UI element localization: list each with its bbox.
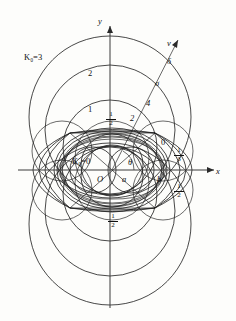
point-b-label: b	[157, 174, 161, 184]
ray-arrowhead	[172, 40, 178, 48]
frac-numerator: 1	[106, 213, 120, 220]
curve-0-label: 0	[161, 137, 165, 147]
k0-equals-0-label: K₀=0	[72, 156, 90, 166]
frac-one-half-right: 1 2	[172, 183, 186, 199]
frac-one-third-right: 1 3	[172, 147, 186, 163]
frac-one-half-lower: 1 2	[106, 213, 120, 229]
ray-4-label: 4	[146, 98, 150, 108]
y-axis-arrowhead	[107, 26, 113, 33]
x-axis-label: x	[216, 166, 220, 176]
y-axis-label: y	[98, 16, 102, 26]
diagram-svg	[0, 0, 236, 321]
point-a-label: a	[122, 174, 126, 184]
figure-canvas: y x K₀=3 2 1 K₀=0 0 4 2 σ δ ν θ O a b 1 …	[0, 0, 236, 321]
origin-label: O	[97, 174, 103, 184]
curve-1-label: 1	[88, 104, 92, 114]
theta-label: θ	[128, 157, 132, 167]
ray-nu-label: ν	[167, 38, 171, 48]
x-axis-arrowhead	[207, 167, 214, 173]
frac-one-half-upper: 1 2	[104, 111, 118, 127]
frac-denominator: 2	[106, 222, 120, 229]
ray-sigma-label: σ	[155, 78, 159, 88]
k0-equals-3-label: K₀=3	[24, 52, 42, 62]
frac-numerator: 1	[172, 183, 186, 190]
frac-denominator: 2	[104, 120, 118, 127]
frac-denominator: 2	[172, 192, 186, 199]
curve-2-label: 2	[88, 68, 92, 78]
frac-numerator: 1	[104, 111, 118, 118]
ray-delta-label: δ	[167, 56, 171, 66]
ray-2-label: 2	[130, 113, 134, 123]
frac-numerator: 1	[172, 147, 186, 154]
frac-denominator: 3	[172, 156, 186, 163]
